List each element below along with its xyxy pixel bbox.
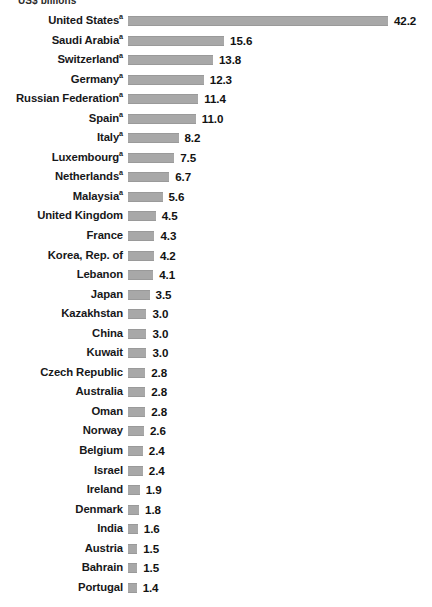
value-bar (128, 270, 153, 280)
chart-row: Denmark1.8 (0, 503, 432, 523)
value-label: 7.5 (180, 151, 196, 164)
category-label: Germanya (71, 73, 123, 86)
category-label: India (97, 522, 123, 535)
value-label: 2.4 (149, 464, 165, 477)
chart-row: Kazakhstan3.0 (0, 307, 432, 327)
value-label: 1.8 (145, 503, 161, 516)
value-bar (128, 114, 196, 124)
category-label: Israel (94, 464, 123, 477)
value-bar (128, 368, 145, 378)
bar-chart-rows: United Statesa42.2Saudi Arabiaa15.6Switz… (0, 14, 432, 600)
chart-row: Ireland1.9 (0, 483, 432, 503)
value-label: 3.0 (152, 346, 168, 359)
category-label: Austria (85, 542, 123, 555)
footnote-marker: a (119, 130, 123, 139)
category-label: France (87, 229, 123, 242)
chart-row: Spaina11.0 (0, 112, 432, 132)
chart-row: Belgium2.4 (0, 444, 432, 464)
category-label: United Kingdom (37, 209, 123, 222)
category-label: Portugal (78, 581, 123, 594)
chart-row: Norway2.6 (0, 424, 432, 444)
value-bar (128, 505, 139, 515)
footnote-marker: a (119, 90, 123, 99)
value-bar (128, 544, 137, 554)
value-label: 3.5 (156, 288, 172, 301)
category-label: Lebanon (77, 268, 123, 281)
category-label: Switzerlanda (57, 53, 123, 66)
chart-row: Lebanon4.1 (0, 268, 432, 288)
chart-row: Bahrain1.5 (0, 561, 432, 581)
chart-row: Italya8.2 (0, 131, 432, 151)
category-label: Korea, Rep. of (48, 249, 123, 262)
footnote-marker: a (119, 32, 123, 41)
category-label: Australia (76, 385, 123, 398)
value-bar (128, 211, 156, 221)
value-bar (128, 172, 169, 182)
chart-row: Luxembourga7.5 (0, 151, 432, 171)
value-label: 2.4 (149, 444, 165, 457)
value-label: 1.5 (143, 561, 159, 574)
value-label: 1.4 (143, 581, 159, 594)
value-bar (128, 36, 224, 46)
value-bar (128, 583, 137, 593)
chart-row: Malaysiaa5.6 (0, 190, 432, 210)
category-label: Czech Republic (40, 366, 123, 379)
value-label: 2.6 (150, 424, 166, 437)
value-label: 6.7 (175, 170, 191, 183)
footnote-marker: a (119, 51, 123, 60)
value-bar (128, 446, 143, 456)
category-label: Russian Federationa (16, 92, 123, 105)
category-label: Bahrain (82, 561, 123, 574)
value-bar (128, 231, 154, 241)
chart-row: Australia2.8 (0, 385, 432, 405)
category-label: Malaysiaa (73, 190, 123, 203)
footnote-marker: a (119, 149, 123, 158)
category-label: Saudi Arabiaa (52, 34, 123, 47)
footnote-marker: a (119, 110, 123, 119)
category-label: Luxembourga (52, 151, 123, 164)
value-bar (128, 485, 140, 495)
value-bar (128, 329, 146, 339)
chart-row: Netherlandsa6.7 (0, 170, 432, 190)
category-label: Denmark (75, 503, 123, 516)
value-label: 15.6 (230, 34, 252, 47)
value-label: 1.5 (143, 542, 159, 555)
value-bar (128, 251, 154, 261)
value-bar (128, 94, 198, 104)
value-bar (128, 309, 146, 319)
value-label: 4.2 (160, 249, 176, 262)
chart-row: United Statesa42.2 (0, 14, 432, 34)
chart-row: Russian Federationa11.4 (0, 92, 432, 112)
value-bar (128, 387, 145, 397)
value-label: 11.4 (204, 92, 226, 105)
chart-row: Germanya12.3 (0, 73, 432, 93)
value-label: 1.9 (146, 483, 162, 496)
value-label: 5.6 (169, 190, 185, 203)
value-bar (128, 563, 137, 573)
value-label: 8.2 (185, 131, 201, 144)
chart-row: Austria1.5 (0, 542, 432, 562)
value-label: 2.8 (151, 405, 167, 418)
chart-row: Czech Republic2.8 (0, 366, 432, 386)
footnote-marker: a (119, 71, 123, 80)
chart-row: Japan3.5 (0, 288, 432, 308)
value-bar (128, 75, 204, 85)
footnote-marker: a (119, 12, 123, 21)
category-label: Kazakhstan (61, 307, 123, 320)
value-bar (128, 524, 138, 534)
value-bar (128, 426, 144, 436)
chart-row: India1.6 (0, 522, 432, 542)
chart-row: Israel2.4 (0, 464, 432, 484)
category-label: Spaina (89, 112, 123, 125)
chart-row: Switzerlanda13.8 (0, 53, 432, 73)
value-label: 13.8 (219, 53, 241, 66)
value-bar (128, 55, 213, 65)
category-label: China (92, 327, 123, 340)
category-label: Italya (97, 131, 123, 144)
category-label: Kuwait (87, 346, 123, 359)
value-bar (128, 348, 146, 358)
chart-row: China3.0 (0, 327, 432, 347)
chart-row: France4.3 (0, 229, 432, 249)
value-bar (128, 407, 145, 417)
category-label: Oman (91, 405, 123, 418)
